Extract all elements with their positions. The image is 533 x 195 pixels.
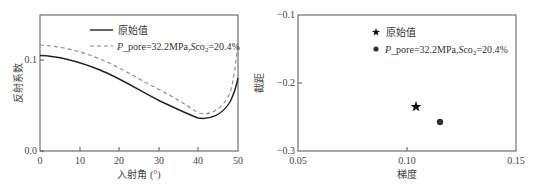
- star-marker-original: [411, 101, 422, 111]
- right-ytick-0: −0.1: [277, 9, 295, 20]
- legend-original-label: 原始值: [118, 24, 148, 36]
- right-xtick-1: 0.10: [398, 155, 416, 166]
- left-xtick-4: 40: [193, 155, 203, 166]
- right-chart: −0.1 −0.2 −0.3 0.05 0.10 0.15 梯度 截距 原始值 …: [253, 9, 525, 180]
- left-ytick-0: 0.0: [25, 145, 38, 156]
- left-xlabel: 入射角 (°): [117, 169, 160, 181]
- legend-star-icon: [372, 28, 380, 36]
- legend-pore-label: P_pore=32.2MPa,Sco2=20.4%: [384, 44, 508, 57]
- left-xtick-5: 50: [233, 155, 243, 166]
- right-xtick-2: 0.15: [507, 155, 525, 166]
- legend-circle-icon: [373, 46, 378, 51]
- right-ylabel: 截距: [253, 73, 265, 93]
- circle-marker-pore: [437, 119, 443, 125]
- series-pore-dashed-line: [40, 45, 238, 114]
- left-xtick-1: 10: [75, 155, 85, 166]
- left-legend: 原始值 P_pore=32.2MPa,Sco2=20.4%: [90, 24, 240, 54]
- legend-original-label: 原始值: [386, 26, 416, 38]
- right-ytick-1: −0.2: [277, 77, 295, 88]
- series-original-line: [40, 56, 238, 119]
- legend-pore-label: P_pore=32.2MPa,Sco2=20.4%: [116, 41, 240, 54]
- left-ytick-1: 0.1: [25, 54, 38, 65]
- right-legend: 原始值 P_pore=32.2MPa,Sco2=20.4%: [372, 26, 508, 57]
- left-xtick-0: 0: [38, 155, 43, 166]
- left-xtick-2: 20: [114, 155, 124, 166]
- left-ylabel: 反射系数: [12, 63, 24, 103]
- figure: 0.0 0.1 0 10 20 30 40 50 入射角 (°) 反射系数 原始…: [0, 0, 533, 195]
- right-xtick-0: 0.05: [289, 155, 307, 166]
- left-chart: 0.0 0.1 0 10 20 30 40 50 入射角 (°) 反射系数 原始…: [12, 15, 243, 181]
- left-xtick-3: 30: [154, 155, 164, 166]
- right-xlabel: 梯度: [397, 168, 417, 180]
